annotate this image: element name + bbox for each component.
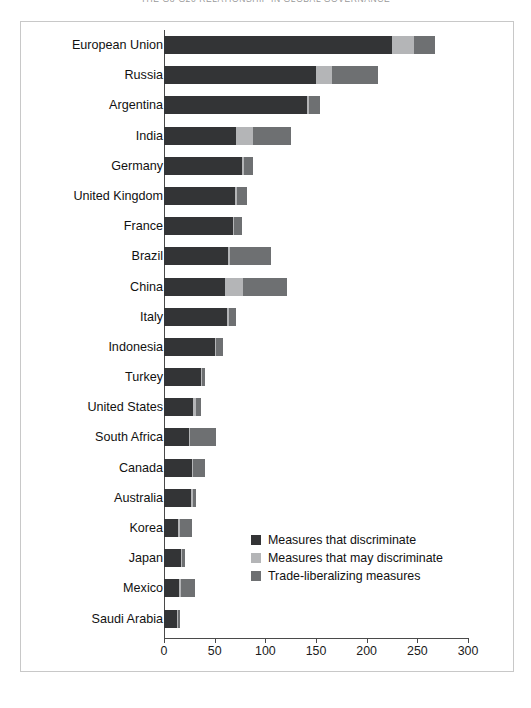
bar-segment (164, 579, 179, 597)
bar-segment (164, 549, 181, 567)
bar-row: China (21, 272, 515, 302)
bar-row-label: Saudi Arabia (92, 604, 163, 634)
x-axis-tick (468, 638, 469, 643)
bar-row-label: China (130, 272, 163, 302)
stacked-bar (164, 96, 320, 114)
legend-item: Trade-liberalizing measures (251, 568, 443, 584)
x-axis-tick (316, 638, 317, 643)
bar-segment (196, 398, 201, 416)
bar-row-label: Canada (119, 453, 163, 483)
bar-row-label: Turkey (125, 362, 163, 392)
bar-segment (164, 36, 392, 54)
bar-row: United Kingdom (21, 181, 515, 211)
stacked-bar (164, 187, 247, 205)
bar-row-label: India (136, 121, 163, 151)
bar-segment (253, 127, 290, 145)
bar-segment (230, 247, 272, 265)
bar-row: Brazil (21, 241, 515, 271)
bar-track (164, 453, 509, 483)
bar-track (164, 211, 509, 241)
stacked-bar (164, 247, 271, 265)
stacked-bar (164, 308, 236, 326)
bar-row-label: Australia (114, 483, 163, 513)
stacked-bar (164, 368, 205, 386)
legend-label: Trade-liberalizing measures (268, 569, 420, 583)
running-head: THE G8-G20 RELATIONSHIP IN GLOBAL GOVERN… (0, 0, 531, 4)
legend-item: Measures that discriminate (251, 532, 443, 548)
bar-segment (164, 247, 228, 265)
bar-segment (164, 459, 192, 477)
bar-segment (164, 519, 178, 537)
bar-row: Indonesia (21, 332, 515, 362)
bar-track (164, 302, 509, 332)
bar-row: European Union (21, 30, 515, 60)
bar-row-label: Italy (140, 302, 163, 332)
bar-track (164, 30, 509, 60)
bar-row-label: Germany (111, 151, 163, 181)
bar-segment (234, 217, 242, 235)
bar-segment (164, 66, 316, 84)
bar-track (164, 181, 509, 211)
bar-track (164, 272, 509, 302)
bar-segment (229, 308, 236, 326)
bar-row-label: Korea (129, 513, 163, 543)
x-axis-tick (367, 638, 368, 643)
stacked-bar (164, 127, 291, 145)
bar-row: South Africa (21, 422, 515, 452)
legend-swatch-discriminate (251, 535, 261, 545)
bar-segment (316, 66, 332, 84)
bar-segment (244, 157, 253, 175)
stacked-bar (164, 278, 287, 296)
bar-track (164, 121, 509, 151)
bar-row-label: United Kingdom (73, 181, 163, 211)
bar-segment (164, 278, 225, 296)
x-axis-tick (265, 638, 266, 643)
bar-row-label: European Union (72, 30, 163, 60)
bar-segment (414, 36, 434, 54)
bar-segment (216, 338, 223, 356)
bar-segment (190, 428, 215, 446)
bar-segment (164, 610, 177, 628)
bar-row: India (21, 121, 515, 151)
bar-segment (164, 368, 201, 386)
bar-row: Argentina (21, 90, 515, 120)
legend-swatch-liberalizing (251, 571, 261, 581)
bar-segment (392, 36, 414, 54)
bar-row: France (21, 211, 515, 241)
stacked-bar (164, 338, 223, 356)
figure-frame: European UnionRussiaArgentinaIndiaGerman… (20, 21, 514, 672)
bar-track (164, 483, 509, 513)
bar-row: Italy (21, 302, 515, 332)
x-axis-tick (417, 638, 418, 643)
legend-item: Measures that may discriminate (251, 550, 443, 566)
bar-row-label: Brazil (132, 241, 164, 271)
stacked-bar (164, 36, 435, 54)
bar-row: Canada (21, 453, 515, 483)
bar-segment (164, 127, 236, 145)
bar-segment (164, 157, 242, 175)
bar-row: Germany (21, 151, 515, 181)
bar-segment (193, 489, 196, 507)
stacked-bar (164, 610, 180, 628)
bar-track (164, 241, 509, 271)
x-axis-tick-label: 50 (208, 644, 222, 658)
bar-row: Russia (21, 60, 515, 90)
bar-row-label: Mexico (123, 573, 163, 603)
bar-segment (193, 459, 204, 477)
bar-row: Australia (21, 483, 515, 513)
bar-segment (202, 368, 204, 386)
bar-segment (164, 96, 307, 114)
bar-segment (164, 217, 233, 235)
bar-segment (164, 187, 235, 205)
bar-row-label: United States (87, 392, 163, 422)
bar-segment (181, 579, 195, 597)
x-axis-tick-label: 300 (458, 644, 479, 658)
stacked-bar (164, 157, 253, 175)
stacked-bar (164, 459, 205, 477)
x-axis-tick-label: 250 (407, 644, 428, 658)
stacked-bar (164, 579, 195, 597)
stacked-bar (164, 398, 201, 416)
bar-row-label: Argentina (109, 90, 163, 120)
bar-row: Saudi Arabia (21, 604, 515, 634)
bar-segment (225, 278, 243, 296)
